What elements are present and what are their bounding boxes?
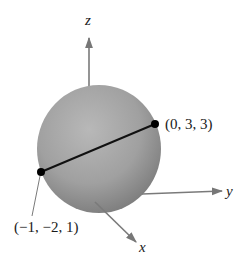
y-axis-label: y — [224, 183, 233, 199]
point-0-3-3 — [151, 120, 159, 128]
x-axis-label: x — [138, 239, 146, 255]
sphere-diagram: z y x (0, 3, 3) (−1, −2, 1) — [0, 0, 247, 262]
point-neg1-neg2-1 — [37, 168, 45, 176]
point-label-leader — [32, 176, 40, 216]
point-label-lower: (−1, −2, 1) — [14, 219, 78, 236]
point-label-upper: (0, 3, 3) — [165, 116, 213, 133]
y-axis — [142, 191, 222, 194]
z-axis-label: z — [84, 12, 91, 28]
